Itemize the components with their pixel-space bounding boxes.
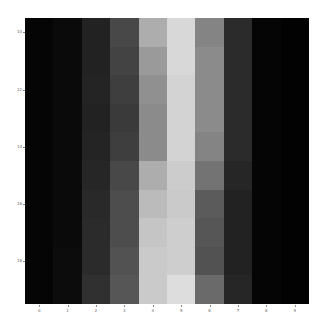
heatmap-cell [139,132,167,161]
y-tick-label: 14 [8,145,22,149]
heatmap-cell [281,247,309,276]
heatmap-cell [110,190,138,219]
heatmap-cell [25,218,53,247]
heatmap-cell [110,218,138,247]
heatmap-cell [281,18,309,47]
heatmap-cell [224,75,252,104]
heatmap-cell [252,161,280,190]
heatmap-cell [281,190,309,219]
heatmap-cell [53,190,81,219]
x-tick-label: 2 [91,308,101,313]
heatmap-cell [53,47,81,76]
heatmap-cell [82,18,110,47]
heatmap-cell [139,104,167,133]
heatmap-cell [281,218,309,247]
heatmap-cell [139,47,167,76]
heatmap-cell [139,218,167,247]
heatmap-cell [53,247,81,276]
heatmap-cell [195,161,223,190]
heatmap-cell [25,18,53,47]
heatmap-cell [82,161,110,190]
heatmap-cell [139,18,167,47]
heatmap-cell [82,190,110,219]
heatmap-cell [139,247,167,276]
heatmap-cell [53,104,81,133]
heatmap-cell [82,104,110,133]
heatmap-cell [25,132,53,161]
x-tick-label: 1 [63,308,73,313]
heatmap-cell [139,161,167,190]
heatmap-cell [53,161,81,190]
heatmap-cell [167,18,195,47]
heatmap-cell [82,132,110,161]
y-tick-label: 18 [8,259,22,263]
heatmap-cell [110,75,138,104]
heatmap-cell [167,104,195,133]
heatmap-cell [195,104,223,133]
x-tick-label: 3 [119,308,129,313]
heatmap-cell [195,190,223,219]
heatmap-cell [110,18,138,47]
x-tick-label: 5 [176,308,186,313]
heatmap-cell [110,132,138,161]
x-tick-label: 6 [205,308,215,313]
heatmap-cell [195,18,223,47]
heatmap-cell [139,275,167,304]
heatmap-cell [82,218,110,247]
heatmap-cell [252,104,280,133]
x-tick-label: 8 [261,308,271,313]
heatmap-cell [110,104,138,133]
heatmap-cell [25,47,53,76]
heatmap-cell [82,247,110,276]
heatmap-cell [53,75,81,104]
heatmap-cell [139,190,167,219]
heatmap-cell [224,247,252,276]
heatmap-cell [82,275,110,304]
heatmap-cell [252,18,280,47]
heatmap-cell [224,47,252,76]
heatmap-cell [195,75,223,104]
heatmap-cell [167,161,195,190]
heatmap-cell [224,161,252,190]
heatmap-cell [224,104,252,133]
heatmap-cell [110,247,138,276]
heatmap-cell [252,75,280,104]
heatmap-cell [252,218,280,247]
heatmap-cell [167,190,195,219]
heatmap-cell [25,247,53,276]
heatmap-cell [224,190,252,219]
heatmap-cell [195,132,223,161]
heatmap-cell [252,132,280,161]
heatmap-cell [252,247,280,276]
heatmap-cell [281,75,309,104]
y-tick-label: 16 [8,202,22,206]
heatmap-cell [224,275,252,304]
heatmap-cell [252,190,280,219]
heatmap-cell [195,47,223,76]
heatmap-cell [53,218,81,247]
heatmap-cell [195,275,223,304]
heatmap-cell [195,247,223,276]
y-tick-label: 12 [8,88,22,92]
heatmap-cell [82,75,110,104]
heatmap-cell [281,132,309,161]
heatmap-cell [281,161,309,190]
heatmap-cell [167,218,195,247]
y-tick-label: 10 [8,30,22,34]
heatmap-cell [53,275,81,304]
x-tick-label: 7 [233,308,243,313]
x-tick-label: 9 [290,308,300,313]
heatmap-cell [110,275,138,304]
heatmap-cell [53,18,81,47]
heatmap-cell [82,47,110,76]
heatmap-cell [25,275,53,304]
heatmap-cell [110,47,138,76]
x-tick-label: 4 [148,308,158,313]
heatmap-cell [25,75,53,104]
heatmap-cell [252,47,280,76]
heatmap-cell [110,161,138,190]
heatmap-cell [25,161,53,190]
heatmap-cell [252,275,280,304]
heatmap-cell [167,275,195,304]
heatmap-cell [167,132,195,161]
